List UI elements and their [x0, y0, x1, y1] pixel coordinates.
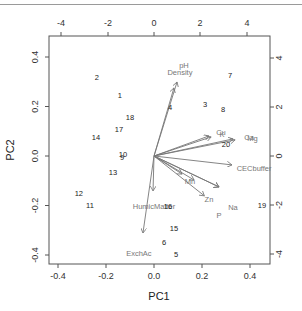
observation-label: 2 [95, 73, 99, 82]
right-tick-label: -2 [274, 201, 284, 209]
observation-label: 11 [86, 201, 94, 210]
y-tick-label: -0.4 [30, 247, 40, 263]
observation-label: 20 [222, 140, 230, 149]
x-axis-title: PC1 [148, 290, 169, 302]
y-tick-label: 0.2 [30, 100, 40, 113]
right-tick-label: -4 [274, 250, 284, 258]
observation-label: 13 [109, 168, 117, 177]
top-tick-label: 2 [197, 18, 202, 28]
loading-labels: pHDensityCuKCaMgCECbufferMnZnNaPHumicMat… [126, 61, 272, 258]
observation-label: 1 [118, 91, 122, 100]
x-tick-label: 0.4 [244, 271, 257, 281]
observation-label: 6 [162, 238, 166, 247]
loading-label: P [217, 211, 222, 220]
right-tick-label: 2 [274, 104, 284, 109]
top-tick-label: -4 [57, 18, 65, 28]
plot-frame [49, 36, 270, 264]
observation-label: 12 [75, 189, 83, 198]
loading-arrow [143, 156, 154, 233]
top-tick-label: -2 [104, 18, 112, 28]
x-tick-label: -0.2 [98, 271, 114, 281]
observation-label: 7 [228, 71, 232, 80]
right-tick-label: 0 [274, 153, 284, 158]
left-axis: -0.4-0.20.00.20.4 [30, 51, 49, 263]
observation-label: 8 [221, 105, 225, 114]
loading-label: K [219, 130, 224, 139]
observation-label: 16 [164, 202, 172, 211]
loading-label: Mn [185, 177, 195, 186]
x-tick-label: 0.0 [148, 271, 161, 281]
loading-label: Zn [205, 195, 214, 204]
observation-label: 15 [170, 224, 178, 233]
y-tick-label: -0.2 [30, 198, 40, 214]
loading-arrow [154, 88, 174, 156]
top-axis: -4-2024 [57, 18, 250, 36]
observation-label: 3 [203, 100, 207, 109]
y-tick-label: 0.4 [30, 51, 40, 64]
observation-label: 17 [115, 125, 123, 134]
observation-label: 18 [126, 113, 134, 122]
biplot-chart: -0.4-0.20.00.20.4 -0.4-0.20.00.20.4 -4-2… [0, 0, 302, 311]
loading-label: ExchAc [126, 249, 152, 258]
loading-label: Na [228, 203, 238, 212]
y-tick-label: 0.0 [30, 150, 40, 163]
bottom-axis: -0.4-0.20.00.20.4 [50, 264, 256, 281]
observation-label: 10 [119, 150, 127, 159]
loading-label: CECbuffer [237, 164, 272, 173]
observation-label: 4 [168, 103, 172, 112]
x-tick-label: 0.2 [196, 271, 209, 281]
observation-label: 19 [258, 201, 266, 210]
observation-label: 5 [174, 250, 178, 259]
loading-label: Mg [247, 134, 257, 143]
loading-label: Density [167, 68, 192, 77]
y-axis-title: PC2 [4, 139, 16, 160]
observation-label: 14 [92, 133, 100, 142]
right-axis: 420-2-4 [270, 55, 284, 258]
x-tick-label: -0.4 [50, 271, 66, 281]
top-tick-label: 0 [151, 18, 156, 28]
right-tick-label: 4 [274, 55, 284, 60]
top-tick-label: 4 [244, 18, 249, 28]
